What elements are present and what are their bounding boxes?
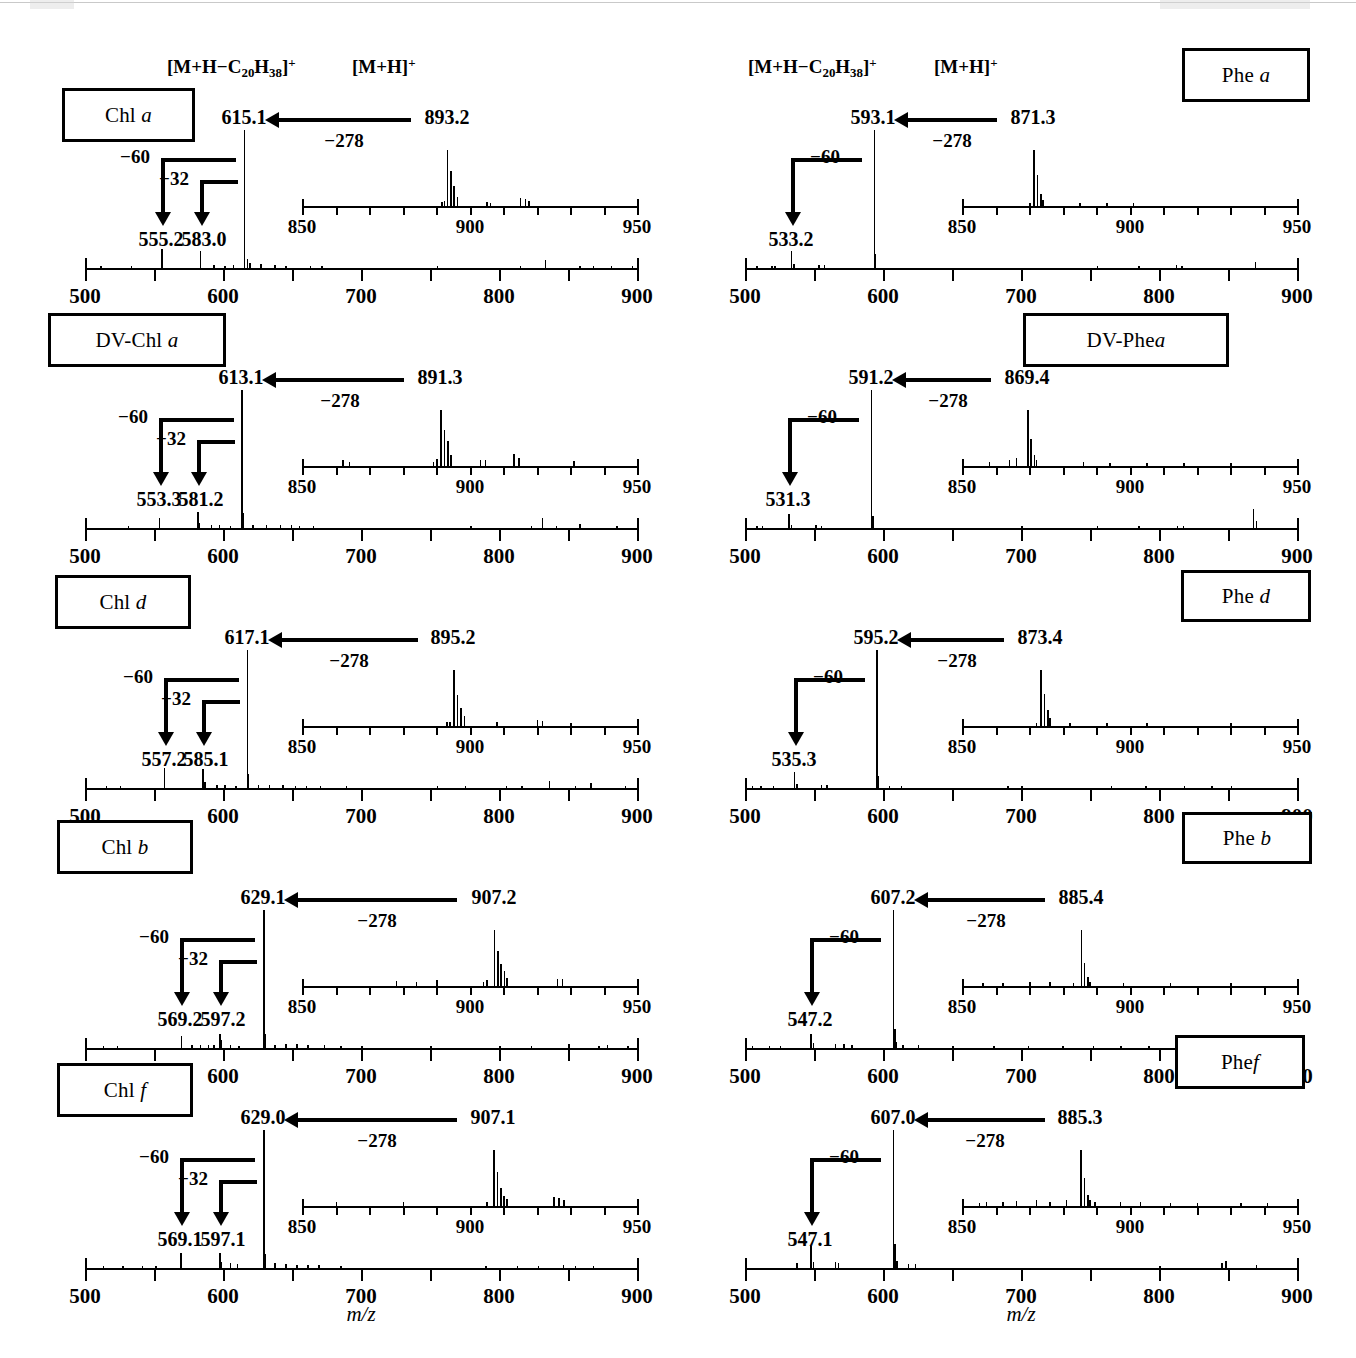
loss32-peak-label: 597.1 [201, 1228, 246, 1251]
main-spectrum-peak [106, 786, 108, 788]
axis-tick [952, 268, 954, 281]
axis-tick-label: 850 [288, 996, 317, 1018]
axis-tick-label: 800 [483, 1064, 515, 1089]
main-spectrum-peak [575, 1266, 577, 1269]
axis-tick-label: 700 [1005, 804, 1037, 829]
spectrum-label-box-phe-a: Phe a [1182, 48, 1310, 102]
inset-spectrum-peak [1123, 983, 1125, 986]
axis-tick [637, 466, 639, 475]
main-spectrum-peak [258, 785, 260, 788]
axis-tick [1264, 986, 1266, 995]
main-spectrum-peak [340, 1046, 342, 1049]
inset-spectrum-peak [440, 410, 442, 466]
inset-spectrum-peak [1033, 150, 1035, 206]
inset-spectrum-peak [450, 455, 452, 466]
axis-tick [883, 1268, 885, 1281]
axis-tick [1264, 206, 1266, 215]
inset-spectrum-peak [457, 197, 459, 206]
fragment-peak-label: 595.2 [854, 626, 899, 649]
axis-tick-label: 950 [1283, 476, 1312, 498]
main-spectrum-peak [760, 786, 762, 789]
axis-line [85, 1048, 637, 1050]
main-spectrum-peak [579, 266, 581, 268]
main-spectrum-peak [1225, 1261, 1227, 1268]
inset-spectrum-peak [1089, 982, 1091, 987]
axis-tick-label: 500 [729, 804, 761, 829]
main-spectrum-peak [590, 783, 592, 788]
axis-tick [952, 1268, 954, 1281]
loss60-arrow-head [174, 992, 190, 1006]
main-spectrum-peak [274, 265, 276, 268]
axis-tick-label: 600 [867, 1064, 899, 1089]
main-spectrum-peak [285, 266, 287, 269]
loss32-arrow-stem [200, 180, 204, 212]
spectrum-label-box-chl-d: Chl d [55, 575, 191, 629]
inset-spectrum-peak [496, 722, 498, 727]
main-spectrum-peak [221, 1262, 223, 1268]
main-spectrum-peak [1021, 526, 1023, 528]
main-spectrum-peak [794, 772, 796, 788]
inset-spectrum-peak [1133, 203, 1135, 206]
axis-tick [403, 466, 405, 475]
loss60-arrow-stem [810, 1158, 814, 1212]
main-spectrum-peak [1093, 1046, 1095, 1049]
loss60-arrow-head [785, 212, 801, 226]
axis-tick-label: 950 [623, 736, 652, 758]
fragment-peak-label: 629.1 [241, 886, 286, 909]
main-spectrum-peak [465, 786, 467, 788]
axis-tick [223, 528, 225, 541]
main-spectrum-peak [818, 265, 820, 268]
fragment-peak-label: 607.0 [871, 1106, 916, 1129]
axis-tick-label: 950 [1283, 996, 1312, 1018]
fragment-peak-stem [247, 650, 249, 726]
main-spectrum-peak [874, 206, 876, 268]
inset-spectrum-peak [1230, 983, 1232, 986]
spectrum-label-text: Chl d [99, 590, 146, 615]
main-spectrum-peak [563, 1265, 565, 1268]
main-spectrum-peak [181, 1036, 183, 1048]
axis-tick [430, 1048, 432, 1061]
axis-tick [436, 986, 438, 995]
loss60-label: −60 [120, 146, 150, 168]
main-spectrum-peak [813, 1262, 815, 1268]
inset-spectrum-peak [464, 716, 466, 726]
phytol-loss-arrow [297, 898, 457, 902]
main-spectrum-peak [1256, 1265, 1258, 1268]
phytol-loss-arrow [905, 378, 991, 382]
main-spectrum-peak [280, 525, 282, 528]
main-spectrum-peak [895, 1042, 897, 1048]
axis-tick [537, 466, 539, 475]
axis-tick [745, 1048, 747, 1061]
axis-tick [637, 726, 639, 735]
axis-tick [745, 268, 747, 281]
loss60-arrow-bar [810, 1158, 881, 1162]
inset-spectrum-peak [1037, 175, 1039, 206]
axis-tick [570, 1206, 572, 1215]
main-spectrum-peak [821, 785, 823, 788]
page-top-mark-right [1160, 0, 1310, 9]
axis-tick-label: 850 [288, 1216, 317, 1238]
main-spectrum-peak [531, 526, 533, 529]
axis-tick-label: 600 [867, 544, 899, 569]
axis-end-cap [637, 1038, 639, 1048]
axis-tick [952, 528, 954, 541]
axis-tick [369, 206, 371, 215]
main-spectrum-peak [200, 251, 202, 268]
axis-tick [570, 986, 572, 995]
main-spectrum-peak [285, 1264, 287, 1268]
axis-line [85, 268, 637, 270]
spectrum-panel-phe-a: 500600700800900850900950593.1871.3−278−6… [0, 0, 1356, 1358]
inset-spectrum-peak [441, 202, 443, 207]
inset-spectrum-peak [1034, 455, 1036, 466]
main-spectrum-peak [835, 1262, 837, 1268]
axis-tick [1130, 726, 1132, 735]
inset-spectrum-peak [444, 430, 446, 466]
main-spectrum-peak [155, 1266, 157, 1268]
main-spectrum-peak [247, 259, 249, 268]
main-spectrum-peak [318, 1265, 320, 1268]
axis-tick [637, 1206, 639, 1215]
axis-tick [1163, 206, 1165, 215]
axis-tick [430, 268, 432, 281]
main-spectrum-peak [556, 526, 558, 529]
axis-tick [1228, 788, 1230, 801]
